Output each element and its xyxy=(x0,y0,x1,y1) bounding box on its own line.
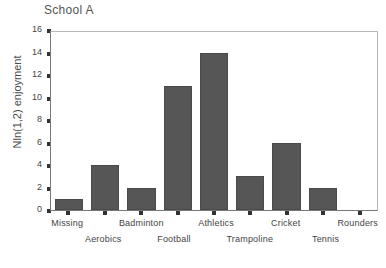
y-axis-tick-label: 4 xyxy=(0,159,42,169)
bar xyxy=(272,143,300,211)
x-axis-label-spacer xyxy=(50,234,85,244)
y-axis-tick-label: 8 xyxy=(0,114,42,124)
bar-slot xyxy=(196,32,232,210)
chart-title: School A xyxy=(44,3,94,17)
x-axis-label: Missing xyxy=(50,218,84,228)
y-axis-tick-label: 10 xyxy=(0,92,42,102)
x-axis-ticks xyxy=(50,211,378,216)
bar-slot xyxy=(160,32,196,210)
y-axis-tick-label: 0 xyxy=(0,204,42,214)
x-axis-label: Football xyxy=(157,234,192,244)
x-axis-tick xyxy=(86,211,122,216)
x-axis-tick xyxy=(50,211,86,216)
x-axis-tick-mark xyxy=(66,211,70,215)
bar-slot xyxy=(232,32,268,210)
x-axis-label-spacer xyxy=(234,218,268,228)
x-axis-tick-mark xyxy=(285,211,289,215)
bar-slot xyxy=(305,32,341,210)
x-axis-tick xyxy=(123,211,159,216)
bar xyxy=(91,165,119,210)
bars-layer xyxy=(51,32,377,210)
x-axis-label: Rounders xyxy=(337,218,378,228)
x-axis-tick-mark xyxy=(176,211,180,215)
x-axis-tick xyxy=(305,211,341,216)
bar xyxy=(127,188,155,211)
x-axis-label: Cricket xyxy=(268,218,302,228)
x-axis-label: Trampoline xyxy=(226,234,273,244)
y-axis-tick-label: 14 xyxy=(0,47,42,57)
plot-area xyxy=(50,31,378,211)
x-axis-label-spacer xyxy=(343,234,378,244)
bar xyxy=(55,199,83,210)
x-axis-label: Badminton xyxy=(119,218,164,228)
x-axis-label-spacer xyxy=(273,234,308,244)
y-axis-tick-label: 16 xyxy=(0,24,42,34)
x-axis-tick-mark xyxy=(248,211,252,215)
x-axis-tick-mark xyxy=(139,211,143,215)
x-axis-labels-top-row: MissingBadmintonAthleticsCricketRounders xyxy=(50,218,378,228)
x-axis-tick xyxy=(232,211,268,216)
bar-slot xyxy=(268,32,304,210)
x-axis-label-spacer xyxy=(84,218,118,228)
y-axis-label: Nln(1,2) enjoyment xyxy=(11,37,23,167)
x-axis-tick xyxy=(159,211,195,216)
bar-slot xyxy=(87,32,123,210)
x-axis-tick-mark xyxy=(212,211,216,215)
x-axis-label-spacer xyxy=(303,218,337,228)
bar-chart: School A Nln(1,2) enjoyment 024681012141… xyxy=(0,0,386,268)
x-axis-tick xyxy=(269,211,305,216)
x-axis-tick-mark xyxy=(321,211,325,215)
x-axis-label: Athletics xyxy=(198,218,234,228)
x-axis-tick xyxy=(342,211,378,216)
bar xyxy=(164,86,192,210)
bar-slot xyxy=(51,32,87,210)
bar xyxy=(200,53,228,211)
bar-slot xyxy=(123,32,159,210)
y-axis-tick-label: 2 xyxy=(0,182,42,192)
x-axis-labels-bottom-row: AerobicsFootballTrampolineTennis xyxy=(50,234,378,244)
bar xyxy=(236,176,264,210)
x-axis-label: Tennis xyxy=(308,234,343,244)
y-axis-tick-label: 12 xyxy=(0,69,42,79)
x-axis-label-spacer xyxy=(191,234,226,244)
x-axis-tick-mark xyxy=(103,211,107,215)
bar-slot xyxy=(341,32,377,210)
x-axis-tick xyxy=(196,211,232,216)
x-axis-label-spacer xyxy=(122,234,157,244)
x-axis-label-spacer xyxy=(164,218,198,228)
x-axis-tick-mark xyxy=(358,211,362,215)
x-axis-label: Aerobics xyxy=(85,234,122,244)
y-axis-tick-label: 6 xyxy=(0,137,42,147)
bar xyxy=(309,188,337,211)
